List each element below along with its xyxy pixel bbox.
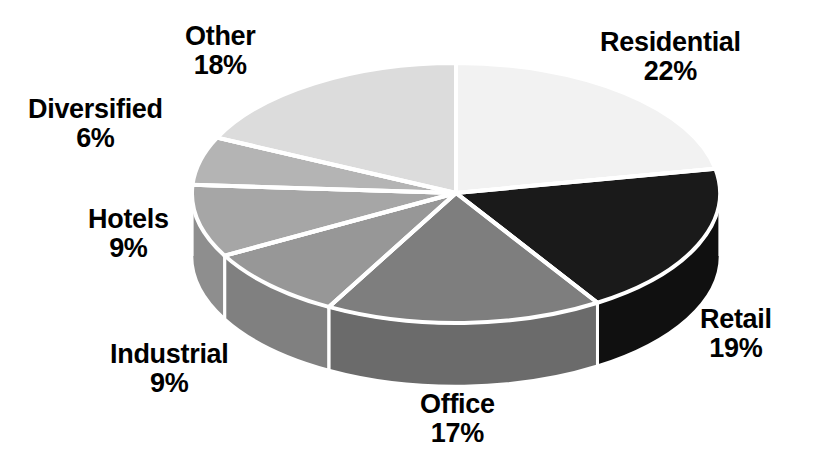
- pie-label-value-retail: 19%: [700, 334, 772, 363]
- pie-label-name-hotels: Hotels: [88, 205, 169, 234]
- pie-label-hotels: Hotels9%: [88, 205, 169, 263]
- pie-label-name-diversified: Diversified: [28, 95, 163, 124]
- pie-label-retail: Retail19%: [700, 305, 772, 363]
- pie-label-value-office: 17%: [420, 419, 495, 448]
- pie-label-name-office: Office: [420, 390, 495, 419]
- pie-label-name-retail: Retail: [700, 305, 772, 334]
- pie-label-value-other: 18%: [185, 51, 256, 80]
- pie-label-name-industrial: Industrial: [110, 340, 229, 369]
- pie-chart-page: Residential22%Retail19%Office17%Industri…: [0, 0, 825, 474]
- pie-label-residential: Residential22%: [600, 28, 741, 86]
- pie-label-name-other: Other: [185, 22, 256, 51]
- pie-label-industrial: Industrial9%: [110, 340, 229, 398]
- pie-label-value-industrial: 9%: [110, 369, 229, 398]
- pie-label-value-diversified: 6%: [28, 124, 163, 153]
- pie-label-office: Office17%: [420, 390, 495, 448]
- pie-label-name-residential: Residential: [600, 28, 741, 57]
- pie-label-value-residential: 22%: [600, 57, 741, 86]
- pie-label-value-hotels: 9%: [88, 234, 169, 263]
- pie-label-other: Other18%: [185, 22, 256, 80]
- pie-label-diversified: Diversified6%: [28, 95, 163, 153]
